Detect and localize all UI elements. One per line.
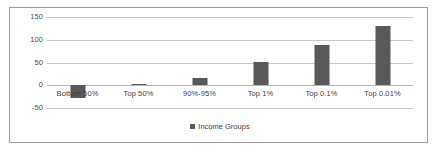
x-tick-label-bottom-50: Bottom 50% [47, 88, 108, 100]
bar-top-1[interactable] [253, 62, 268, 85]
legend-swatch-icon [190, 124, 195, 129]
y-tick-label: 150 [3, 13, 43, 21]
bar-top-0-01[interactable] [375, 26, 390, 85]
y-tick-label: 50 [3, 59, 43, 67]
y-tick-label: 100 [3, 36, 43, 44]
chart-container: 150 100 50 0 -50 Bottom [0, 0, 440, 155]
x-axis: Bottom 50% Top 50% 90%-95% Top 1% Top 0.… [47, 88, 413, 100]
y-tick-label: 0 [3, 81, 43, 89]
x-tick-label-top-0-01: Top 0.01% [352, 88, 413, 100]
x-tick-label-top-1: Top 1% [230, 88, 291, 100]
x-tick-label-90-95: 90%-95% [169, 88, 230, 100]
x-tick-label-top-50: Top 50% [108, 88, 169, 100]
bar-top-0-1[interactable] [314, 45, 329, 85]
x-tick-label-top-0-1: Top 0.1% [291, 88, 352, 100]
bar-top-50[interactable] [131, 84, 146, 85]
chart-legend: Income Groups [0, 122, 440, 132]
legend-label: Income Groups [198, 122, 249, 132]
y-tick-label: -50 [3, 104, 43, 112]
gridline-minus50 [47, 108, 413, 109]
legend-item-income-groups[interactable]: Income Groups [190, 122, 249, 132]
bar-90-95[interactable] [192, 78, 207, 86]
y-axis: 150 100 50 0 -50 [0, 17, 43, 108]
